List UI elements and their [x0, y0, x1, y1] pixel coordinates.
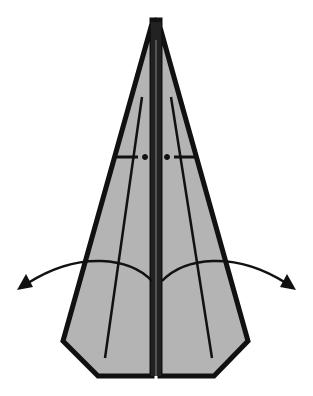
paper-airplane-fold-diagram	[0, 0, 313, 396]
center-fold	[150, 18, 162, 376]
right-wing	[158, 20, 248, 376]
left-wing	[63, 20, 153, 376]
